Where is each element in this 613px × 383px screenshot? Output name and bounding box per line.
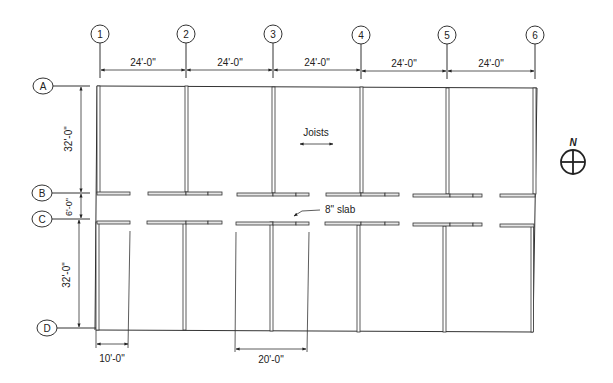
edge-beams xyxy=(97,192,535,227)
row-bc-dim: 6'-0" xyxy=(64,198,74,216)
row-cd-dim: 32'-0" xyxy=(61,262,72,288)
slab-leader xyxy=(294,210,320,216)
row-ab-dim: 32'-0" xyxy=(63,126,74,152)
bottom-left-dim: 10'-0" xyxy=(99,353,125,364)
left-dimensions xyxy=(79,87,81,327)
slab-label: 8" slab xyxy=(325,204,356,215)
north-label: N xyxy=(569,137,577,148)
bay-3-dim: 24'-0" xyxy=(304,57,330,68)
grid-5-label: 5 xyxy=(444,30,450,41)
grid-1-label: 1 xyxy=(97,29,103,40)
north-arrow-icon: N xyxy=(561,137,585,174)
bay-5-dim: 24'-0" xyxy=(478,58,504,69)
grid-6-label: 6 xyxy=(532,30,538,41)
grid-d-label: D xyxy=(43,323,50,334)
bay-2-dim: 24'-0" xyxy=(217,57,243,68)
top-dimensions xyxy=(101,70,534,71)
bay-4-dim: 24'-0" xyxy=(391,58,417,69)
bottom-middle-dim: 20'-0" xyxy=(258,354,284,365)
joists-label: Joists xyxy=(303,127,329,138)
framing-plan: 1 2 3 4 5 6 24'-0" 24'-0" 24'-0" 24'-0" … xyxy=(0,0,613,383)
bottom-dimensions xyxy=(96,231,309,352)
grid-b-label: B xyxy=(39,188,46,199)
grid-4-label: 4 xyxy=(358,30,364,41)
girders xyxy=(96,86,536,332)
bay-1-dim: 24'-0" xyxy=(130,57,156,68)
slab-outline xyxy=(95,86,537,332)
grid-2-label: 2 xyxy=(183,29,189,40)
grid-c-label: C xyxy=(38,214,45,225)
grid-a-label: A xyxy=(40,81,47,92)
grid-3-label: 3 xyxy=(270,29,276,40)
